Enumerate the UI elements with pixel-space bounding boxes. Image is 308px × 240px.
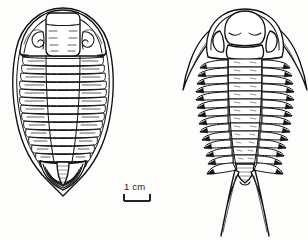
right-occipital-ring [227,45,264,60]
right-glabella [225,11,266,46]
figure-root: 1 cm [0,0,308,240]
trilobite-illustration-canvas: 1 cm [0,0,308,240]
scale-bar-label: 1 cm [124,181,145,192]
left-glabella [46,13,80,56]
left-thorax [20,57,107,169]
